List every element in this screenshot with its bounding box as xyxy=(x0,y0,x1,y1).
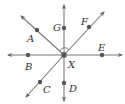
label-D: D xyxy=(68,83,77,94)
point-A xyxy=(35,28,39,32)
point-G xyxy=(62,26,66,30)
point-C xyxy=(38,80,42,84)
label-G: G xyxy=(53,22,61,33)
label-C: C xyxy=(43,84,51,95)
label-E: E xyxy=(97,42,106,53)
point-X xyxy=(62,53,67,58)
point-D xyxy=(62,81,66,85)
label-F: F xyxy=(80,16,89,27)
rays-diagram: G A F E B X C D xyxy=(0,0,125,104)
label-B: B xyxy=(24,61,32,72)
point-B xyxy=(26,53,30,57)
label-X: X xyxy=(67,59,76,70)
point-E xyxy=(100,53,104,57)
label-A: A xyxy=(26,33,34,44)
